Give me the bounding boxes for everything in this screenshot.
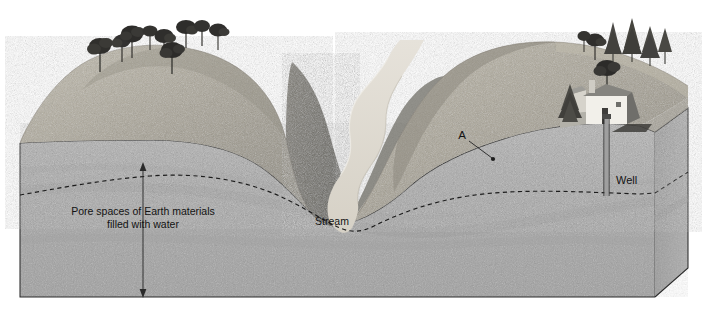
label-point-a: A: [458, 129, 466, 141]
house-chimney: [589, 80, 595, 93]
well-head: [602, 114, 611, 119]
groundwater-block-diagram: A Pore spaces of Earth materials filled …: [0, 0, 702, 314]
diagram-canvas: A Pore spaces of Earth materials filled …: [0, 0, 702, 314]
label-well: Well: [616, 174, 637, 186]
well-shaft-fill: [605, 118, 609, 196]
point-a-marker: [491, 157, 495, 161]
tree-deciduous: [209, 24, 230, 51]
tree-conifer: [658, 28, 672, 64]
tree-conifer: [640, 26, 660, 66]
label-stream: Stream: [315, 215, 349, 227]
house-window: [616, 102, 621, 107]
label-pore-spaces-line2: filled with water: [107, 218, 179, 230]
label-pore-spaces-line1: Pore spaces of Earth materials: [71, 205, 215, 217]
